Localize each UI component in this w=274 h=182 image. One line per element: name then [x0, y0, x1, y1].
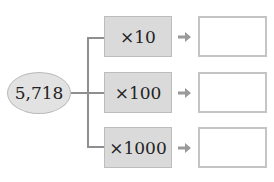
- connector-bottom: [87, 146, 104, 148]
- operation-label: ×1000: [109, 138, 167, 158]
- multiplication-diagram: 5,718 ×10 ×100 ×1000: [0, 0, 274, 182]
- connector-vertical: [87, 37, 89, 147]
- operation-label: ×10: [120, 27, 156, 47]
- arrow-right-icon: [178, 87, 192, 99]
- connector-top: [87, 37, 104, 39]
- operation-box-x1000: ×1000: [104, 127, 172, 168]
- operation-label: ×100: [115, 83, 162, 103]
- arrow-right-icon: [178, 142, 192, 154]
- answer-box-x100[interactable]: [198, 72, 267, 113]
- start-value: 5,718: [15, 83, 64, 103]
- operation-box-x100: ×100: [104, 72, 172, 113]
- arrow-right-icon: [178, 31, 192, 43]
- answer-box-x10[interactable]: [198, 16, 267, 57]
- start-value-ellipse: 5,718: [7, 72, 71, 114]
- answer-box-x1000[interactable]: [198, 127, 267, 168]
- operation-box-x10: ×10: [104, 16, 172, 57]
